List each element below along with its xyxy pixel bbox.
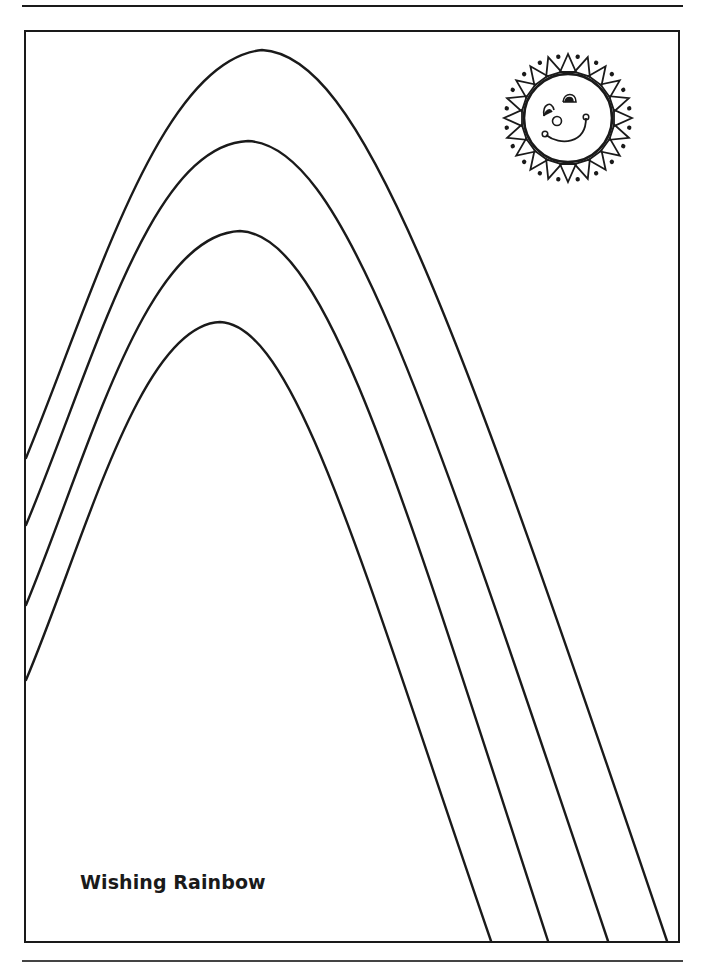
- rainbow-arc-2: [26, 141, 608, 941]
- rainbow-arc-3: [26, 231, 548, 941]
- rainbow-arc-4: [26, 322, 491, 941]
- rainbow-arc-1: [26, 50, 667, 941]
- sun-icon: [504, 54, 632, 182]
- rainbow-arcs: [26, 50, 667, 941]
- coloring-artwork: [0, 0, 705, 968]
- bottom-rule: [22, 960, 683, 962]
- page-title: Wishing Rainbow: [80, 871, 266, 893]
- sun-face: [524, 74, 612, 162]
